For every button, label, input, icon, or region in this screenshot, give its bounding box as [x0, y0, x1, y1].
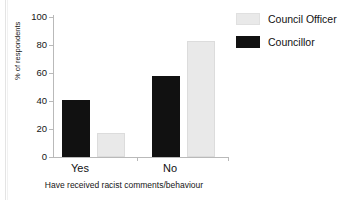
legend-item-council-officer[interactable]: Council Officer [236, 13, 337, 25]
legend-swatch-icon-council-officer [236, 13, 260, 25]
x-category-label-yes: Yes [50, 163, 110, 174]
y-tick-label: 100 [31, 12, 47, 22]
y-tick-label: 80 [36, 40, 47, 50]
bar-councillor-yes[interactable] [62, 100, 90, 157]
y-axis-title: % of respondents [14, 10, 22, 80]
legend: Council Officer Councillor [236, 13, 337, 59]
legend-item-councillor[interactable]: Councillor [236, 36, 337, 48]
x-axis-line [53, 157, 229, 158]
x-tick-mark-mid [137, 157, 138, 161]
x-tick-mark-end [228, 157, 229, 161]
y-tick-label: 60 [36, 68, 47, 78]
y-tick-label: 0 [42, 152, 47, 162]
bar-councillor-no[interactable] [152, 76, 180, 157]
legend-swatch-icon-councillor [236, 36, 260, 48]
y-tick-label: 20 [36, 124, 47, 134]
plot-area [53, 17, 228, 157]
y-tick-label: 40 [36, 96, 47, 106]
legend-label-councillor: Councillor [268, 37, 315, 48]
bar-chart: 0 20 40 60 80 100 Yes No Have received r… [0, 0, 345, 200]
bar-council-officer-yes[interactable] [97, 133, 125, 157]
legend-label-council-officer: Council Officer [268, 14, 337, 25]
bar-council-officer-no[interactable] [187, 41, 215, 157]
x-category-label-no: No [140, 163, 200, 174]
x-axis-title: Have received racist comments/behaviour [0, 181, 248, 190]
y-tick-mark [49, 157, 53, 158]
